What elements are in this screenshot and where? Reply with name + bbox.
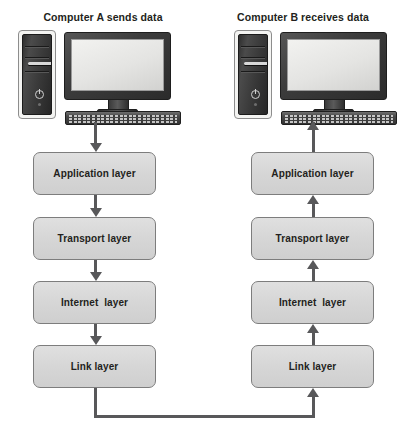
- keyboard-key-row: [69, 121, 177, 123]
- computer-tower-icon: [234, 30, 272, 119]
- network-link-horizontal-segment: [94, 415, 314, 418]
- column-title-computer-a: Computer A sends data: [8, 10, 198, 24]
- keyboard-key-row: [285, 115, 393, 117]
- arrowhead-up-network-link: [307, 388, 319, 397]
- network-link-left-segment: [94, 388, 97, 418]
- keyboard-key-row: [285, 121, 393, 123]
- layer-box-b-transport[interactable]: Transport layer: [251, 217, 374, 260]
- monitor-screen: [287, 39, 380, 91]
- arrowhead-up-b-device: [307, 121, 319, 130]
- tower-seam: [241, 46, 265, 47]
- arrowhead-up-b-transport: [307, 260, 319, 269]
- layer-box-b-internet[interactable]: Internet layer: [251, 281, 374, 324]
- keyboard-icon: [281, 111, 397, 125]
- connector-a-device-to-application: [94, 122, 97, 144]
- tower-body: [238, 34, 268, 115]
- connector-b-link-to-internet: [312, 332, 315, 345]
- arrowhead-down-a-transport: [90, 208, 102, 217]
- keyboard-key-row: [69, 118, 177, 120]
- layer-box-a-transport[interactable]: Transport layer: [33, 217, 156, 260]
- arrowhead-up-b-internet: [307, 324, 319, 333]
- layer-box-a-link[interactable]: Link layer: [33, 345, 156, 388]
- status-led-icon: [254, 103, 257, 106]
- tower-seam: [25, 46, 49, 47]
- computer-b-illustration: [228, 30, 401, 125]
- tower-seam: [25, 71, 49, 72]
- arrowhead-down-a-link: [90, 336, 102, 345]
- connector-b-transport-to-application: [312, 203, 315, 217]
- computer-monitor-icon: [64, 32, 182, 125]
- connector-a-application-to-transport: [94, 195, 97, 209]
- monitor-screen: [71, 39, 164, 91]
- computer-tower-icon: [18, 30, 56, 119]
- arrowhead-down-a-internet: [90, 272, 102, 281]
- computer-a-illustration: [12, 30, 187, 125]
- layer-box-b-link[interactable]: Link layer: [251, 345, 374, 388]
- monitor-bezel: [280, 32, 387, 100]
- arrowhead-down-a-application: [90, 143, 102, 152]
- connector-b-internet-to-transport: [312, 268, 315, 281]
- diagram-canvas: Computer A sends data Computer B receive…: [0, 0, 401, 432]
- optical-drive-icon: [28, 62, 52, 65]
- status-led-icon: [38, 103, 41, 106]
- power-button-icon: [251, 90, 260, 99]
- arrowhead-up-b-application: [307, 195, 319, 204]
- keyboard-icon: [65, 111, 181, 125]
- layer-box-a-application[interactable]: Application layer: [33, 152, 156, 195]
- layer-box-a-internet[interactable]: Internet layer: [33, 281, 156, 324]
- computer-monitor-icon: [280, 32, 398, 125]
- monitor-bezel: [64, 32, 171, 100]
- keyboard-key-row: [69, 115, 177, 117]
- network-link-right-segment: [312, 396, 315, 418]
- tower-seam: [241, 57, 265, 58]
- keyboard-key-row: [285, 118, 393, 120]
- power-button-icon: [35, 90, 44, 99]
- layer-box-b-application[interactable]: Application layer: [251, 152, 374, 195]
- tower-seam: [25, 57, 49, 58]
- tower-body: [22, 34, 52, 115]
- column-title-computer-b: Computer B receives data: [208, 10, 398, 24]
- optical-drive-icon: [244, 62, 268, 65]
- tower-seam: [241, 71, 265, 72]
